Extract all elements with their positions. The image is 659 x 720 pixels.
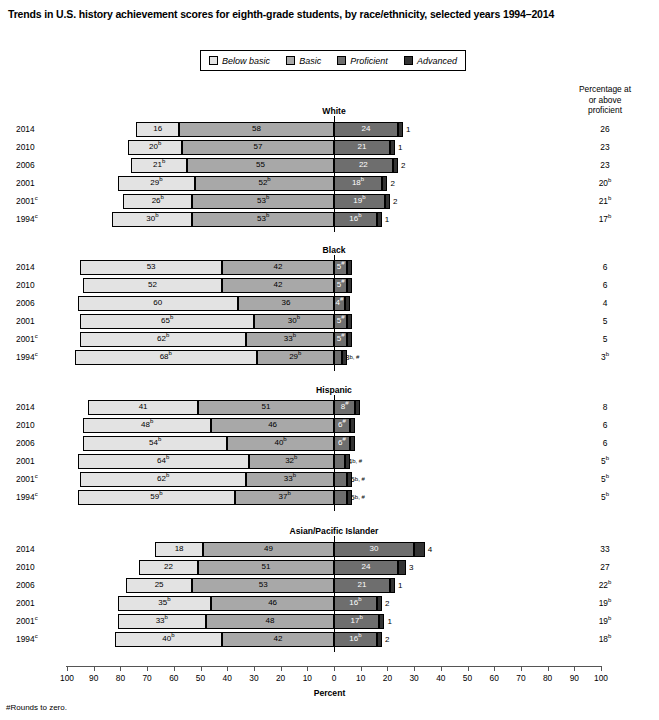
bar-segment-advanced-label: 4	[425, 542, 432, 557]
bar-segment-prof: 17b	[334, 614, 379, 629]
bar-segment-basic: 52b	[195, 176, 334, 191]
bar-segment-value: 16	[153, 125, 162, 133]
percent-at-or-above-proficient-value: 23	[556, 160, 654, 170]
chart-row: 201048b466#6	[0, 416, 659, 434]
chart-row: 201052425#6	[0, 276, 659, 294]
legend-label: Below basic	[222, 56, 270, 66]
bar-segment-value: 25	[155, 581, 164, 589]
bar-segment-value: 53b	[257, 197, 269, 205]
bar-segment-value: 16b	[349, 635, 361, 643]
bar-segment-basic: 58	[179, 122, 334, 137]
axis-tick-label: 100	[586, 673, 616, 683]
legend-swatch-basic-icon	[286, 56, 295, 65]
bar-segment-basic: 53b	[192, 212, 334, 227]
percent-at-or-above-proficient-value: 20b	[556, 178, 654, 188]
bar-segment-basic: 42	[222, 260, 334, 275]
bar-segment-advanced-label: 1	[384, 614, 391, 629]
bar-segment-advanced	[398, 560, 406, 575]
bar-segment-below: 29b	[118, 176, 195, 191]
x-axis: 1009080706050403020100102030405060708090…	[0, 666, 659, 690]
bar-segment-below: 16	[136, 122, 179, 137]
bar-segment-advanced	[414, 542, 425, 557]
bar-segment-prof: 21	[334, 578, 390, 593]
axis-tick	[281, 666, 282, 671]
bar-segment-value: 29b	[289, 353, 301, 361]
bar-segment-prof: 6#	[334, 436, 350, 451]
percent-at-or-above-proficient-value: 6	[556, 438, 654, 448]
axis-tick-label: 40	[426, 673, 456, 683]
axis-tick	[494, 666, 495, 671]
bar-segment-advanced-label	[352, 490, 355, 505]
percent-at-or-above-proficient-value: 19b	[556, 616, 654, 626]
bar-segment-prof: 30	[334, 542, 414, 557]
bar-segment-below: 62b	[80, 332, 246, 347]
bar-segment-below: 26b	[123, 194, 192, 209]
bar-segment-prof: 6#	[334, 418, 350, 433]
chart-row: 201453425#6	[0, 258, 659, 276]
percent-at-or-above-proficient-value: 26	[556, 124, 654, 134]
bar-segment-basic: 49	[203, 542, 334, 557]
chart-root: Trends in U.S. history achievement score…	[0, 0, 659, 720]
chart-row: 200654b40b6#6	[0, 434, 659, 452]
axis-tick-label: 90	[79, 673, 109, 683]
bar-segment-advanced-label	[352, 278, 355, 293]
chart-row: 2001c26b53b19b221b	[0, 192, 659, 210]
bar-segment-value: 49	[264, 545, 273, 553]
percent-at-or-above-proficient-value: 5b	[556, 492, 654, 502]
axis-tick-label: 80	[533, 673, 563, 683]
chart-row: 200129b52b18b220b	[0, 174, 659, 192]
axis-tick-label: 90	[559, 673, 589, 683]
bar-segment-basic: 53b	[192, 194, 334, 209]
bar-segment-prof: 21	[334, 140, 390, 155]
bar-segment-value: 60	[153, 299, 162, 307]
bar-segment-basic: 51	[198, 400, 334, 415]
axis-title: Percent	[0, 688, 659, 698]
legend-swatch-adv-icon	[404, 56, 413, 65]
axis-tick	[174, 666, 175, 671]
bar-segment-prof: 24	[334, 122, 398, 137]
legend-label: Basic	[299, 56, 321, 66]
bar-segment-value: 40b	[162, 635, 174, 643]
legend-item-prof: Proficient	[337, 56, 388, 66]
chart-row: 2014165824126	[0, 120, 659, 138]
bar-segment-advanced-label	[350, 296, 353, 311]
bar-segment-value: 52b	[258, 179, 270, 187]
group-heading: Hispanic	[316, 385, 352, 395]
percent-at-or-above-proficient-value: 23	[556, 142, 654, 152]
bar-segment-value: 5#	[337, 281, 345, 289]
bar-segment-value: 32b	[285, 457, 297, 465]
bar-segment-basic: 57	[182, 140, 334, 155]
chart-row: 1994c30b53b16b117b	[0, 210, 659, 228]
bar-segment-value: 42	[273, 281, 282, 289]
bar-segment-value: 5#	[337, 263, 345, 271]
bar-segment-below: 48b	[83, 418, 211, 433]
bar-segment-basic: 55	[187, 158, 334, 173]
bar-segment-value: 5#	[337, 335, 345, 343]
bar-segment-prof: 4#	[334, 296, 345, 311]
bar-segment-prof: 16b	[334, 632, 377, 647]
chart-row: 1994c68b29b3b, #3b	[0, 348, 659, 366]
bar-segment-value: 21b	[153, 161, 165, 169]
axis-tick	[548, 666, 549, 671]
percent-at-or-above-proficient-value: 5	[556, 334, 654, 344]
bar-segment-advanced-label	[360, 400, 363, 415]
axis-tick-label: 40	[212, 673, 242, 683]
group-heading: Asian/Pacific Islander	[290, 526, 379, 536]
chart-row: 200621b5522223	[0, 156, 659, 174]
bar-segment-value: 20b	[149, 143, 161, 151]
chart-row: 1994c40b4216b218b	[0, 630, 659, 648]
page-title: Trends in U.S. history achievement score…	[8, 8, 554, 20]
bar-segment-value: 58	[252, 125, 261, 133]
percent-at-or-above-proficient-value: 21b	[556, 196, 654, 206]
axis-tick-label: 100	[52, 673, 82, 683]
bar-segment-value: 46	[268, 421, 277, 429]
axis-tick-label: 60	[479, 673, 509, 683]
axis-tick	[147, 666, 148, 671]
bar-segment-basic: 42	[222, 632, 334, 647]
axis-tick-label: 0	[319, 673, 349, 683]
bar-segment-advanced-label	[350, 454, 353, 469]
bar-segment-value: 55	[256, 161, 265, 169]
bar-segment-value: 53b	[257, 215, 269, 223]
axis-tick	[468, 666, 469, 671]
axis-tick-label: 80	[105, 673, 135, 683]
